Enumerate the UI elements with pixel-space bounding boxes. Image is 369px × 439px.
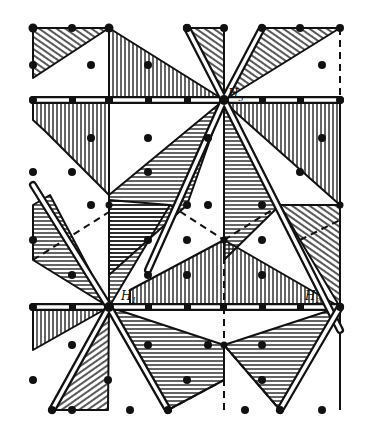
lattice-dot xyxy=(258,201,266,209)
region-upper-left-band xyxy=(33,102,109,195)
lattice-dot xyxy=(29,376,37,384)
lattice-dot xyxy=(126,406,134,414)
lattice-dot xyxy=(241,406,249,414)
lattice-dot xyxy=(296,168,304,176)
lattice-dot xyxy=(204,341,212,349)
lattice-dot xyxy=(68,24,76,32)
lattice-dot xyxy=(104,376,112,384)
lattice-dot xyxy=(29,236,37,244)
region-top-left xyxy=(33,28,109,78)
lattice-dot xyxy=(68,271,76,279)
hatched-regions xyxy=(33,28,340,410)
lattice-dot xyxy=(144,134,152,142)
lattice-dot xyxy=(258,236,266,244)
lattice-dot xyxy=(258,376,266,384)
lattice-dot xyxy=(183,201,191,209)
lattice-dot xyxy=(183,376,191,384)
lattice-dot xyxy=(144,271,152,279)
lattice-dot xyxy=(144,341,152,349)
lattice-dot xyxy=(183,24,191,32)
lattice-dot xyxy=(87,134,95,142)
lattice-dot xyxy=(318,134,326,142)
lattice-dot xyxy=(183,236,191,244)
lattice-dot xyxy=(204,134,212,142)
lattice-dot xyxy=(87,61,95,69)
lattice-dot xyxy=(204,201,212,209)
lattice-dot xyxy=(296,24,304,32)
lattice-dot xyxy=(29,168,37,176)
lattice-dot xyxy=(29,61,37,69)
lattice-dot xyxy=(144,168,152,176)
lattice-dot xyxy=(68,341,76,349)
lattice-dot xyxy=(144,61,152,69)
lattice-dot xyxy=(183,271,191,279)
lattice-dot xyxy=(318,406,326,414)
lattice-dot xyxy=(144,236,152,244)
lattice-dot xyxy=(258,271,266,279)
lattice-dot xyxy=(258,341,266,349)
lattice-dot xyxy=(68,168,76,176)
lattice-dot xyxy=(318,61,326,69)
region-low-fan-right xyxy=(109,307,224,410)
region-low-right xyxy=(224,307,340,410)
lattice-dot xyxy=(68,406,76,414)
symmetry-diagram: H3 H1 H2 xyxy=(0,0,369,439)
lattice-dot xyxy=(87,201,95,209)
